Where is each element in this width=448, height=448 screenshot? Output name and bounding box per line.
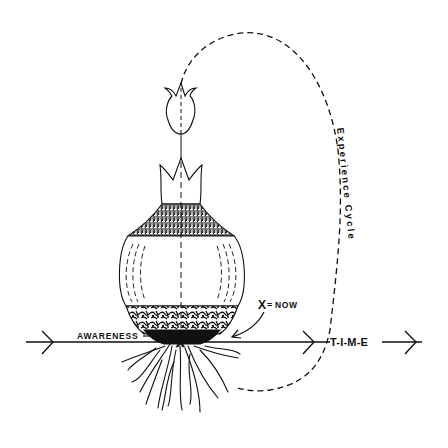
now-equals: = <box>267 300 272 310</box>
diagram-svg: Experience Cycle <box>0 0 448 448</box>
roots <box>122 344 240 412</box>
now-x: X <box>258 298 266 312</box>
x-marker: X <box>176 335 185 350</box>
experience-cycle-diagram: Experience Cycle <box>0 0 448 448</box>
experience-cycle-label: Experience Cycle <box>335 127 358 241</box>
now-pointer <box>232 312 264 338</box>
bulb <box>119 158 244 344</box>
now-text: NOW <box>275 300 298 310</box>
flower <box>165 83 196 162</box>
awareness-label: AWARENESS <box>77 331 139 341</box>
now-label: X = NOW <box>258 298 298 312</box>
time-label: T-I-M-E <box>330 336 368 348</box>
